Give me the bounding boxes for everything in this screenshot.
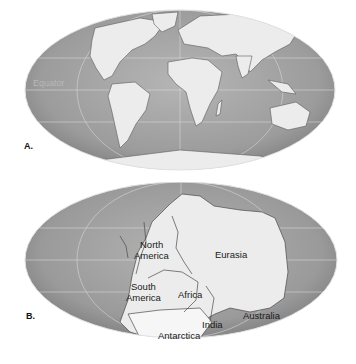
world-map-pangaea: North America Eurasia South America Afri… — [0, 182, 356, 364]
label-australia: Australia — [243, 310, 281, 321]
equator-label: Equator — [33, 78, 65, 88]
label-north-america-1: North — [140, 239, 163, 250]
label-north-america-2: America — [134, 250, 170, 261]
label-south-america-2: America — [126, 292, 162, 303]
map-panel-a: Equator A. — [0, 0, 356, 182]
label-antarctica: Antarctica — [158, 330, 201, 341]
map-panel-b: North America Eurasia South America Afri… — [0, 182, 356, 364]
panel-label-a: A. — [24, 141, 33, 151]
world-map-present: Equator — [0, 0, 356, 182]
label-eurasia: Eurasia — [215, 249, 248, 260]
label-south-america-1: South — [131, 281, 156, 292]
label-africa: Africa — [178, 289, 203, 300]
label-india: India — [202, 319, 223, 330]
panel-label-b: B. — [26, 311, 35, 321]
